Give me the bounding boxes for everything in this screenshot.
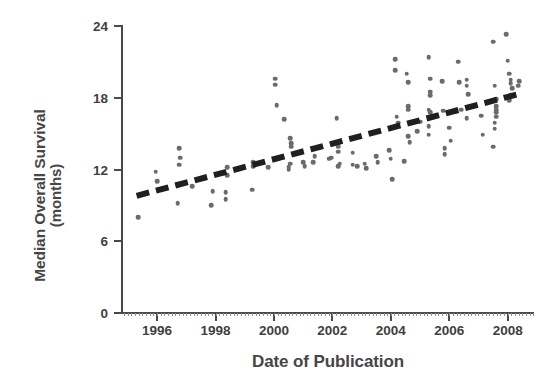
x-minor-tick bbox=[241, 313, 242, 316]
x-minor-tick bbox=[409, 313, 410, 316]
x-minor-tick bbox=[292, 313, 293, 316]
x-minor-tick bbox=[274, 313, 275, 316]
data-point bbox=[441, 109, 446, 114]
data-point bbox=[329, 155, 334, 160]
x-minor-tick bbox=[179, 313, 180, 316]
x-minor-tick bbox=[405, 313, 406, 316]
data-point bbox=[464, 83, 469, 88]
y-tick-label: 18 bbox=[68, 90, 108, 105]
data-point bbox=[443, 152, 448, 157]
data-point bbox=[507, 72, 512, 77]
x-minor-tick bbox=[464, 313, 465, 316]
x-minor-tick bbox=[234, 313, 235, 316]
data-point bbox=[311, 160, 316, 165]
x-minor-tick bbox=[183, 313, 184, 316]
x-minor-tick bbox=[259, 313, 260, 316]
y-tick-label: 12 bbox=[68, 162, 108, 177]
data-point bbox=[448, 138, 453, 143]
data-point bbox=[428, 93, 433, 98]
x-minor-tick bbox=[493, 313, 494, 316]
x-minor-tick bbox=[420, 313, 421, 316]
x-minor-tick bbox=[325, 313, 326, 316]
x-tick-label: 1998 bbox=[190, 323, 242, 338]
x-minor-tick bbox=[489, 313, 490, 316]
x-minor-tick bbox=[314, 313, 315, 316]
y-tick-mark bbox=[114, 25, 122, 27]
x-axis-title: Date of Publication bbox=[122, 352, 534, 372]
x-minor-tick bbox=[194, 313, 195, 316]
data-point bbox=[492, 121, 497, 126]
y-tick-mark bbox=[114, 97, 122, 99]
x-minor-tick bbox=[256, 313, 257, 316]
x-minor-tick bbox=[285, 313, 286, 316]
data-point bbox=[405, 72, 410, 77]
data-point bbox=[286, 167, 291, 172]
x-minor-tick bbox=[230, 313, 231, 316]
x-minor-tick bbox=[508, 313, 509, 316]
x-minor-tick bbox=[329, 313, 330, 316]
x-tick-label: 2008 bbox=[482, 323, 534, 338]
x-minor-tick bbox=[478, 313, 479, 316]
y-axis-title-line2: (months) bbox=[48, 164, 65, 227]
data-point bbox=[374, 154, 379, 159]
x-minor-tick bbox=[142, 313, 143, 316]
x-minor-tick bbox=[468, 313, 469, 316]
x-minor-tick bbox=[321, 313, 322, 316]
data-point bbox=[516, 83, 521, 88]
x-minor-tick bbox=[248, 313, 249, 316]
x-minor-tick bbox=[391, 313, 392, 316]
x-minor-tick bbox=[150, 313, 151, 316]
x-minor-tick bbox=[500, 313, 501, 316]
x-minor-tick bbox=[362, 313, 363, 316]
x-minor-tick bbox=[402, 313, 403, 316]
data-point bbox=[175, 201, 180, 206]
data-point bbox=[481, 133, 486, 138]
x-minor-tick bbox=[354, 313, 355, 316]
x-minor-tick bbox=[281, 313, 282, 316]
data-point bbox=[177, 146, 182, 151]
x-minor-tick bbox=[511, 313, 512, 316]
x-minor-tick bbox=[358, 313, 359, 316]
data-point bbox=[492, 83, 497, 88]
x-minor-tick bbox=[124, 313, 125, 316]
x-minor-tick bbox=[153, 313, 154, 316]
x-minor-tick bbox=[131, 313, 132, 316]
data-point bbox=[393, 57, 398, 62]
data-point bbox=[426, 55, 431, 60]
x-minor-tick bbox=[475, 313, 476, 316]
x-minor-tick bbox=[442, 313, 443, 316]
x-minor-tick bbox=[168, 313, 169, 316]
x-minor-tick bbox=[427, 313, 428, 316]
data-point bbox=[402, 159, 407, 164]
x-minor-tick bbox=[387, 313, 388, 316]
x-minor-tick bbox=[252, 313, 253, 316]
data-point bbox=[364, 166, 369, 171]
data-point bbox=[389, 156, 394, 161]
data-point bbox=[136, 215, 141, 220]
x-minor-tick bbox=[318, 313, 319, 316]
data-point bbox=[492, 127, 497, 132]
x-minor-tick bbox=[135, 313, 136, 316]
y-tick-mark bbox=[114, 240, 122, 242]
x-minor-tick bbox=[376, 313, 377, 316]
data-point bbox=[426, 133, 431, 138]
data-point bbox=[209, 203, 214, 208]
y-axis-title: Median Overall Survival (months) bbox=[0, 0, 96, 391]
x-minor-tick bbox=[519, 313, 520, 316]
data-point bbox=[406, 134, 411, 139]
x-minor-tick bbox=[453, 313, 454, 316]
x-minor-tick bbox=[128, 313, 129, 316]
x-minor-tick bbox=[347, 313, 348, 316]
data-point bbox=[210, 189, 215, 194]
x-minor-tick bbox=[267, 313, 268, 316]
data-point bbox=[387, 148, 392, 153]
x-minor-tick bbox=[245, 313, 246, 316]
data-point bbox=[355, 164, 360, 169]
x-minor-tick bbox=[296, 313, 297, 316]
x-tick-label: 2000 bbox=[248, 323, 300, 338]
x-minor-tick bbox=[303, 313, 304, 316]
data-point bbox=[456, 60, 461, 65]
x-minor-tick bbox=[413, 313, 414, 316]
x-minor-tick bbox=[332, 313, 333, 316]
x-minor-tick bbox=[237, 313, 238, 316]
